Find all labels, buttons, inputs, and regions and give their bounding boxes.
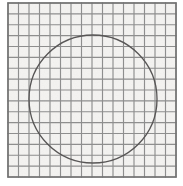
paper-grain-texture [8,3,176,177]
figure-canvas [0,0,183,186]
graph-paper-figure [0,0,183,186]
